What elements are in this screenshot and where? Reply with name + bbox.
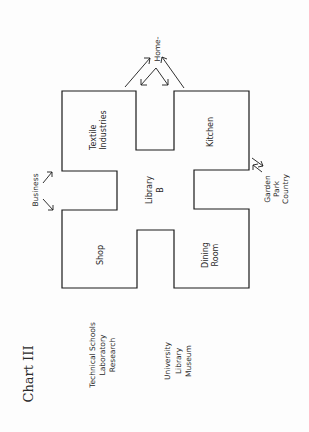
room-kitchen: Kitchen	[206, 117, 215, 147]
diagram-canvas: Textile Industries Kitchen Library B Sho…	[0, 0, 309, 432]
svg-text:University: University	[163, 342, 172, 380]
svg-text:Park: Park	[272, 180, 281, 197]
university-label: University Library Museum	[163, 342, 193, 380]
room-dining-room: Dining Room	[201, 242, 220, 268]
svg-text:Library: Library	[174, 347, 183, 374]
garden-arrows	[252, 158, 263, 172]
dining-label-2: Room	[211, 243, 220, 266]
business-arrows	[43, 172, 53, 210]
dining-label-1: Dining	[201, 242, 210, 268]
textile-label-1: Textile	[89, 124, 98, 151]
garden-park-country-label: Garden Park Country	[263, 174, 290, 204]
room-textile-industries: Textile Industries	[89, 110, 108, 151]
textile-label-2: Industries	[99, 110, 108, 149]
chart-title: Chart III	[21, 345, 36, 402]
svg-text:Country: Country	[281, 174, 290, 204]
technical-schools-label: Technical Schools Laboratory Research	[88, 322, 117, 389]
room-library: Library B	[145, 176, 165, 204]
svg-text:Research: Research	[108, 338, 117, 373]
room-shop: Shop	[96, 245, 105, 265]
library-letter: B	[156, 187, 165, 193]
home-label: Home-	[153, 36, 162, 61]
business-label: Business	[31, 173, 40, 206]
library-label: Library	[145, 176, 154, 204]
svg-text:Laboratory: Laboratory	[98, 334, 107, 375]
svg-text:Museum: Museum	[184, 345, 193, 377]
svg-text:Technical Schools: Technical Schools	[88, 322, 97, 389]
svg-text:Garden: Garden	[263, 175, 272, 203]
